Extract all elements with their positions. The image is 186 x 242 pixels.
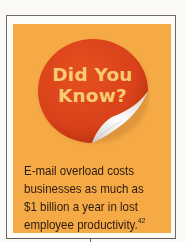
footnote-marker: 42 <box>138 216 146 225</box>
fact-text: E-mail overload costs businesses as much… <box>24 162 153 234</box>
sticker-title-line1: Did You <box>36 64 149 85</box>
did-you-know-sticker: Did You Know? <box>36 37 150 145</box>
fact-line: businesses as much as <box>24 180 153 198</box>
fact-line: E-mail overload costs <box>24 162 153 180</box>
fact-line-last: employee productivity.42 <box>24 216 153 234</box>
sticker-title: Did You Know? <box>36 64 149 106</box>
fact-line: employee productivity. <box>24 217 138 232</box>
sticker-title-line2: Know? <box>36 85 149 106</box>
fact-line: $1 billion a year in lost <box>24 198 153 216</box>
